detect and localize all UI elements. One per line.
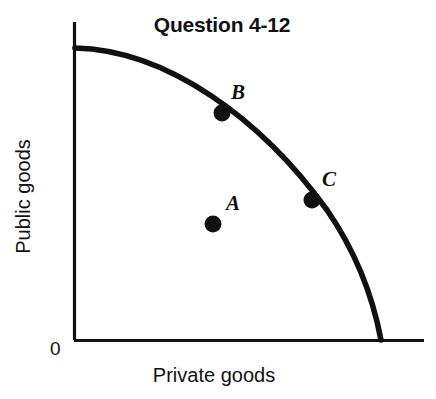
ppf-plot [0,0,436,399]
figure-container: Question 4-12 0 Public goods Private goo… [0,0,436,399]
data-point-c-label: C [322,169,336,190]
data-point-a-marker [205,216,222,233]
origin-label: 0 [50,338,61,360]
x-axis-label: Private goods [74,364,354,387]
data-point-b-label: B [231,82,245,103]
data-point-b-marker [214,105,231,122]
data-point-a-label: A [226,193,240,214]
y-axis-label: Public goods [12,127,35,267]
data-point-c-marker [304,192,321,209]
